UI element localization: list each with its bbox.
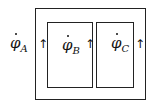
flow-label-a: φA: [10, 36, 28, 54]
flow-arrow-a: ↑: [38, 38, 48, 50]
flow-arrow-b: ↑: [85, 38, 95, 50]
inner-boundary-c: [96, 22, 134, 88]
flow-label-b: φB: [62, 38, 80, 56]
flow-label-c: φC: [111, 36, 129, 54]
time-derivative-dot-b: [67, 35, 69, 37]
time-derivative-dot-a: [15, 33, 17, 35]
time-derivative-dot-c: [116, 33, 118, 35]
flow-arrow-c: ↑: [135, 38, 145, 50]
